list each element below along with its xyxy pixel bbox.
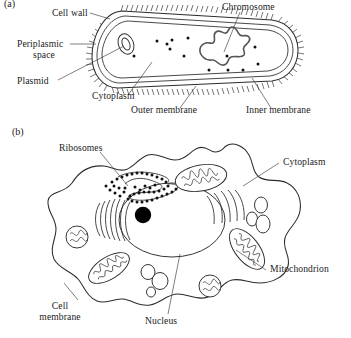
label-mitochondrion: Mitochondrion [270, 263, 329, 274]
label-cell-membrane-line2: membrane [26, 311, 94, 322]
panel-b-eukaryotic-cell [48, 144, 301, 314]
label-nucleus: Nucleus [145, 315, 177, 326]
label-ribosomes: Ribosomes [59, 142, 103, 153]
panel-b-id: (b) [12, 126, 24, 137]
label-cytoplasm-b: Cytoplasm [283, 156, 325, 167]
lysosome-shape [66, 226, 88, 248]
label-periplasmic-space-line1: Periplasmic [17, 38, 63, 49]
label-chromosome: Chromosome [222, 1, 275, 12]
cell-diagram-figure: (a) Cell wall Periplasmic space Plasmid … [0, 0, 351, 338]
label-cell-membrane-line1: Cell [38, 300, 82, 311]
nucleolus-shape [135, 207, 151, 223]
label-cytoplasm-a: Cytoplasm [92, 90, 134, 101]
panel-a-id: (a) [4, 0, 15, 9]
label-cell-wall: Cell wall [52, 7, 88, 18]
label-periplasmic-space-line2: space [17, 49, 71, 60]
label-inner-membrane: Inner membrane [246, 104, 311, 115]
label-outer-membrane: Outer membrane [131, 104, 197, 115]
label-plasmid: Plasmid [17, 75, 49, 86]
lysosome-shape [199, 275, 221, 297]
